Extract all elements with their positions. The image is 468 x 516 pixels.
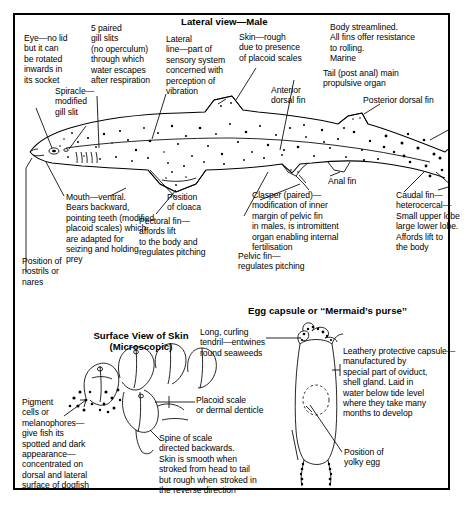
label-eye: Eye—no lid but it can be rotated inwards…: [24, 33, 94, 85]
title-surface-view-of-skin: Surface View of Skin (Microscopic): [66, 330, 216, 352]
label-tendril: Long, curling tendril—entwines round sea…: [200, 327, 270, 358]
label-posterior-dorsal-fin: Posterior dorsal fin: [363, 95, 467, 105]
label-caudal-fin: Caudal fin— heterocercal— Small upper lo…: [396, 190, 464, 252]
label-skin: Skin—rough due to presence of placoid sc…: [239, 32, 319, 63]
label-tail: Tail (post anal) main propulsive organ: [323, 68, 443, 89]
label-placoid-scale: Placoid scale or dermal denticle: [196, 395, 296, 416]
label-spine-of-scale: Spine of scale directed backwards. Skin …: [159, 433, 295, 495]
title-lateral-view: Lateral view—Male: [181, 16, 268, 27]
label-anterior-dorsal-fin: Anterior dorsal fin: [271, 85, 331, 106]
label-spiracle: Spiracle— modified gill slit: [55, 86, 117, 117]
label-anal-fin: Anal fin: [328, 176, 374, 186]
label-leathery-capsule: Leathery protective capsule— manufacture…: [343, 346, 465, 419]
label-pectoral-fin: Pectoral fin— affords lift to the body a…: [139, 216, 229, 258]
title-egg-capsule: Egg capsule or ‘‘Mermaid’s purse’’: [248, 305, 438, 316]
label-nostrils: Position of nostrils or nares: [22, 256, 94, 287]
label-clasper: Clasper (paired)— modification of inner …: [252, 190, 398, 252]
label-pelvic-fin: Pelvic fin— regulates pitching: [238, 251, 330, 272]
label-yolky-egg: Position of yolky egg: [344, 447, 420, 468]
label-body-streamlined: Body streamlined. All fins offer resista…: [330, 22, 458, 64]
label-pigment-cells: Pigment cells or melanophores— give fish…: [22, 397, 112, 491]
label-lateral-line: Lateral line—part of sensory system conc…: [166, 34, 248, 96]
label-cloaca: Position of cloaca: [167, 192, 221, 213]
